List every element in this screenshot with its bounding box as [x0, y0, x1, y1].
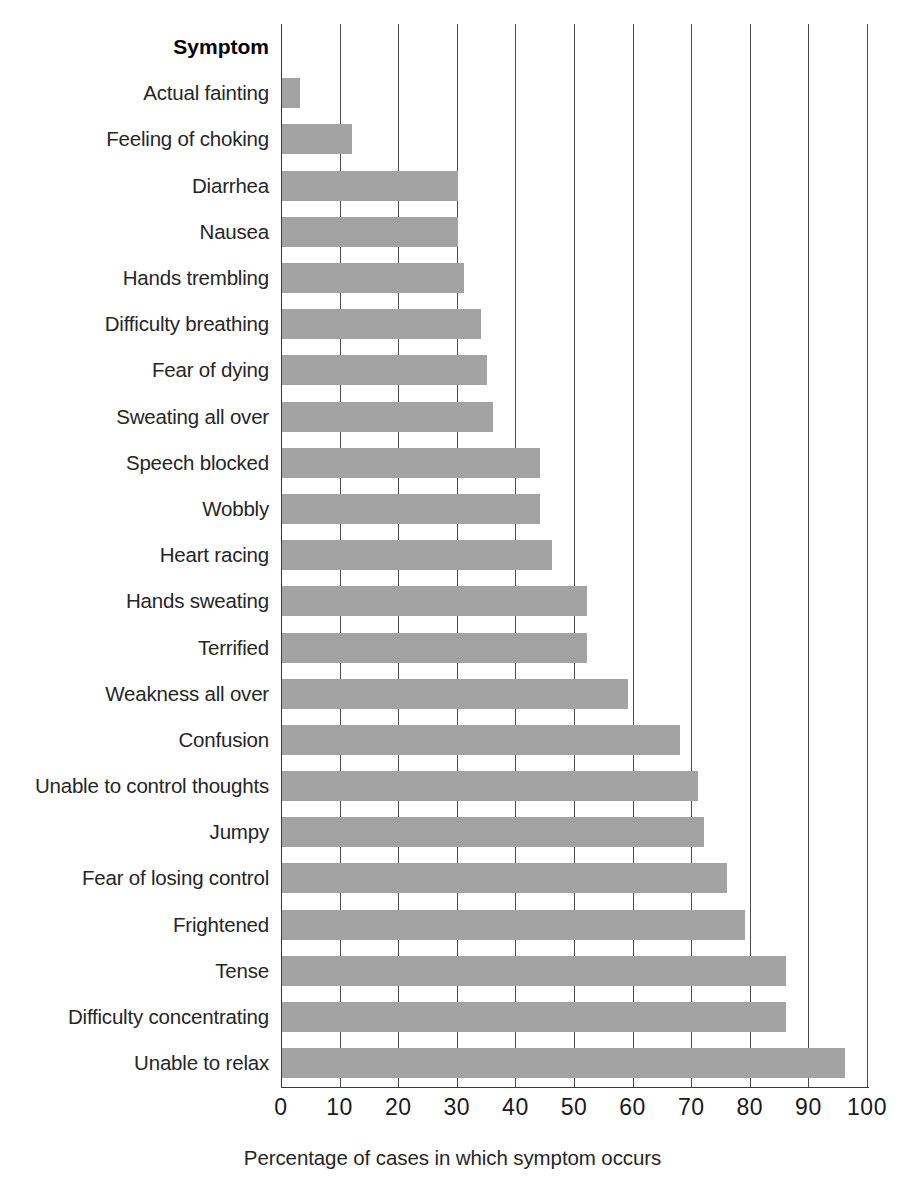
category-label: Difficulty concentrating [68, 1005, 269, 1029]
bar [282, 355, 487, 385]
x-tick-90: 90 [795, 1094, 822, 1121]
category-label: Fear of losing control [82, 866, 269, 890]
category-label: Hands trembling [123, 266, 269, 290]
bar [282, 78, 300, 108]
x-tick-30: 30 [444, 1094, 471, 1121]
bar [282, 956, 786, 986]
chart-row: Wobbly [0, 486, 905, 532]
bar [282, 679, 628, 709]
chart-row: Tense [0, 948, 905, 994]
bar [282, 217, 458, 247]
x-tick-60: 60 [619, 1094, 646, 1121]
chart-row: Heart racing [0, 532, 905, 578]
bar [282, 1048, 845, 1078]
x-tick-20: 20 [385, 1094, 412, 1121]
chart-row: Feeling of choking [0, 116, 905, 162]
x-axis-line [281, 1087, 869, 1088]
category-label: Confusion [178, 728, 269, 752]
bar [282, 910, 745, 940]
x-tick-40: 40 [502, 1094, 529, 1121]
chart-row: Terrified [0, 624, 905, 670]
category-label: Speech blocked [126, 451, 269, 475]
bar [282, 725, 680, 755]
category-label: Heart racing [160, 543, 269, 567]
category-label: Frightened [173, 913, 269, 937]
chart-row: Frightened [0, 902, 905, 948]
chart-row: Nausea [0, 209, 905, 255]
chart-row: Difficulty concentrating [0, 994, 905, 1040]
x-tick-0: 0 [274, 1094, 287, 1121]
bar [282, 1002, 786, 1032]
chart-row: Actual fainting [0, 70, 905, 116]
category-label: Unable to control thoughts [35, 774, 269, 798]
category-label: Fear of dying [152, 358, 269, 382]
bar [282, 309, 481, 339]
category-label: Actual fainting [143, 81, 269, 105]
bar [282, 124, 352, 154]
x-tick-80: 80 [737, 1094, 764, 1121]
category-label: Sweating all over [116, 405, 269, 429]
bar [282, 494, 540, 524]
chart-row: Jumpy [0, 809, 905, 855]
chart-row: Speech blocked [0, 440, 905, 486]
category-label: Jumpy [210, 820, 269, 844]
y-axis-title: Symptom [173, 35, 269, 59]
bar [282, 817, 704, 847]
chart-row: Unable to control thoughts [0, 763, 905, 809]
category-label: Hands sweating [126, 589, 269, 613]
chart-row-header: Symptom [0, 24, 905, 70]
category-label: Diarrhea [192, 174, 269, 198]
category-label: Terrified [198, 636, 269, 660]
category-label: Difficulty breathing [105, 312, 269, 336]
bar [282, 586, 587, 616]
x-tick-70: 70 [678, 1094, 705, 1121]
x-axis-tick-labels: 0102030405060708090100 [0, 1094, 905, 1128]
bar [282, 540, 552, 570]
bar [282, 633, 587, 663]
chart-rows: SymptomActual faintingFeeling of choking… [0, 24, 905, 1087]
chart-row: Weakness all over [0, 671, 905, 717]
category-label: Tense [215, 959, 269, 983]
chart-row: Difficulty breathing [0, 301, 905, 347]
bar [282, 402, 493, 432]
chart-row: Diarrhea [0, 163, 905, 209]
bar-chart: SymptomActual faintingFeeling of choking… [0, 0, 905, 1199]
x-axis-title: Percentage of cases in which symptom occ… [0, 1146, 905, 1170]
chart-row: Sweating all over [0, 394, 905, 440]
x-tick-50: 50 [561, 1094, 588, 1121]
category-label: Feeling of choking [106, 127, 269, 151]
chart-row: Fear of dying [0, 347, 905, 393]
chart-row: Confusion [0, 717, 905, 763]
bar [282, 171, 458, 201]
chart-row: Hands trembling [0, 255, 905, 301]
category-label: Wobbly [202, 497, 269, 521]
x-tick-10: 10 [326, 1094, 353, 1121]
chart-row: Hands sweating [0, 578, 905, 624]
bar [282, 771, 698, 801]
category-label: Nausea [200, 220, 269, 244]
chart-row: Unable to relax [0, 1040, 905, 1086]
category-label: Unable to relax [134, 1051, 269, 1075]
category-label: Weakness all over [105, 682, 269, 706]
bar [282, 863, 727, 893]
x-tick-100: 100 [847, 1094, 887, 1121]
bar [282, 263, 464, 293]
bar [282, 448, 540, 478]
chart-row: Fear of losing control [0, 855, 905, 901]
